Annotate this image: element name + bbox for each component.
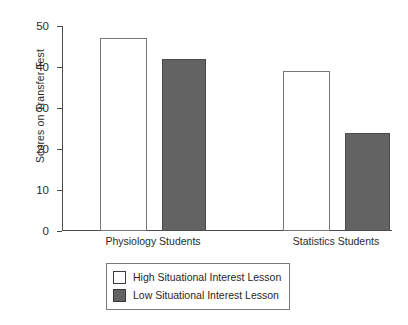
y-tick-10: 10	[57, 190, 62, 191]
bar-chart-figure: Scores on Transfer Test 50 40 30 20 10 0…	[0, 0, 408, 325]
chart-legend: High Situational Interest Lesson Low Sit…	[106, 263, 290, 310]
y-axis-line	[62, 26, 63, 231]
bar-physiology-low	[162, 59, 206, 231]
legend-swatch-low-icon	[113, 289, 126, 302]
y-tick-50: 50	[57, 26, 62, 27]
y-tick-label-30: 30	[36, 102, 49, 114]
legend-item-high: High Situational Interest Lesson	[113, 268, 281, 286]
y-tick-30: 30	[57, 108, 62, 109]
legend-item-low: Low Situational Interest Lesson	[113, 286, 281, 304]
legend-swatch-high-icon	[113, 271, 126, 284]
plot-area: 50 40 30 20 10 0	[62, 26, 392, 231]
legend-label-low: Low Situational Interest Lesson	[133, 289, 279, 301]
bar-physiology-high	[100, 38, 147, 231]
x-category-label-statistics: Statistics Students	[293, 235, 379, 247]
y-tick-20: 20	[57, 149, 62, 150]
bar-statistics-low	[345, 133, 390, 231]
legend-label-high: High Situational Interest Lesson	[133, 271, 281, 283]
y-tick-40: 40	[57, 67, 62, 68]
bar-statistics-high	[283, 71, 330, 231]
y-tick-label-40: 40	[36, 61, 49, 73]
y-tick-0: 0	[57, 231, 62, 232]
x-category-label-physiology: Physiology Students	[105, 235, 200, 247]
y-tick-label-50: 50	[36, 20, 49, 32]
y-tick-label-20: 20	[36, 143, 49, 155]
y-tick-label-0: 0	[43, 225, 49, 237]
y-tick-label-10: 10	[36, 184, 49, 196]
